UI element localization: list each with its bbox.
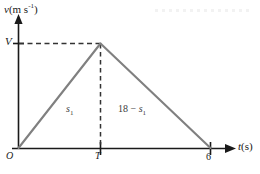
y-axis-label-unit: (m s xyxy=(9,3,28,15)
x-axis-label-unit: (s) xyxy=(241,140,253,152)
dotted-artifact xyxy=(155,9,251,13)
origin-label: O xyxy=(6,151,13,161)
x-tick-label-T: T xyxy=(95,151,101,161)
x-axis-arrowhead xyxy=(225,144,236,153)
y-axis-arrowhead xyxy=(14,14,22,24)
y-tick-label-V: V xyxy=(5,36,12,47)
velocity-falling-segment xyxy=(101,44,211,149)
area-label-18-minus-s1-subscript: 1 xyxy=(143,109,147,117)
y-axis-label: v(m s-1) xyxy=(4,3,38,15)
area-label-s1: s1 xyxy=(66,104,73,117)
area-label-18-minus-s1-prefix: 18 − xyxy=(118,103,139,114)
area-label-s1-subscript: 1 xyxy=(70,109,74,117)
area-label-18-minus-s1: 18 − s1 xyxy=(118,104,146,117)
velocity-time-graph-figure: v(m s-1) t(s) V O T 6 s1 18 − s1 xyxy=(0,0,260,174)
x-axis-label: t(s) xyxy=(238,141,253,152)
velocity-rising-segment xyxy=(19,44,101,149)
graph-canvas xyxy=(0,0,260,174)
x-tick-label-6: 6 xyxy=(206,152,211,162)
y-axis-label-unit-close: ) xyxy=(34,3,38,15)
